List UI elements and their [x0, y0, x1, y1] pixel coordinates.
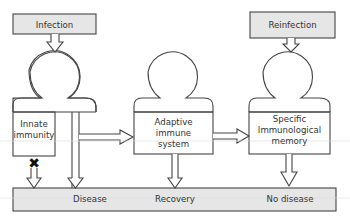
innate-label-1: Innate [13, 119, 55, 129]
blocked-x-icon: ✖ [24, 156, 44, 170]
disease-outcome: Disease [55, 194, 125, 204]
adaptive-label-1: Adaptive [134, 117, 213, 127]
innate-label-2: immunity [11, 130, 57, 140]
no-disease-outcome: No disease [255, 194, 325, 204]
adaptive-label-3: system [134, 139, 213, 149]
adaptive-label-2: immune [134, 128, 213, 138]
reinfection-label: Reinfection [250, 20, 335, 30]
memory-label-3: memory [249, 136, 330, 146]
recovery-outcome: Recovery [140, 194, 210, 204]
memory-label-2: Immunological [249, 125, 330, 135]
immune-flow-diagram [0, 0, 350, 219]
memory-label-1: Specific [249, 114, 330, 124]
infection-label: Infection [13, 20, 96, 30]
